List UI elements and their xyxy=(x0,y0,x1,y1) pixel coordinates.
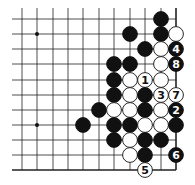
black-stone[interactable] xyxy=(107,133,122,148)
white-stone[interactable] xyxy=(123,88,138,103)
white-stone[interactable]: 1 xyxy=(138,73,153,88)
star-point xyxy=(35,32,39,36)
black-stone[interactable]: 2 xyxy=(169,103,184,118)
white-stone[interactable] xyxy=(138,118,153,133)
white-stone[interactable] xyxy=(123,73,138,88)
white-stone[interactable] xyxy=(154,42,169,57)
black-stone[interactable] xyxy=(107,88,122,103)
black-stone[interactable] xyxy=(107,73,122,88)
black-stone[interactable] xyxy=(154,27,169,42)
move-number-label: 6 xyxy=(172,149,180,162)
black-stone[interactable] xyxy=(138,88,153,103)
move-number-label: 1 xyxy=(141,74,149,87)
black-stone[interactable] xyxy=(123,57,138,72)
white-stone[interactable] xyxy=(123,133,138,148)
white-stone[interactable] xyxy=(154,118,169,133)
black-stone[interactable] xyxy=(138,42,153,57)
black-stone[interactable] xyxy=(154,133,169,148)
black-stone[interactable] xyxy=(92,103,107,118)
star-point xyxy=(35,123,39,127)
white-stone[interactable] xyxy=(123,103,138,118)
move-number-label: 4 xyxy=(172,43,180,56)
white-stone[interactable] xyxy=(123,148,138,163)
black-stone[interactable] xyxy=(154,12,169,27)
white-stone[interactable]: 7 xyxy=(169,88,184,103)
move-number-label: 2 xyxy=(172,104,180,117)
go-board[interactable]: 48137265 xyxy=(0,0,195,185)
black-stone[interactable] xyxy=(123,27,138,42)
black-stone[interactable]: 8 xyxy=(169,57,184,72)
white-stone[interactable] xyxy=(154,57,169,72)
move-number-label: 3 xyxy=(157,89,165,102)
white-stone[interactable] xyxy=(169,27,184,42)
black-stone[interactable] xyxy=(107,57,122,72)
black-stone[interactable]: 4 xyxy=(169,42,184,57)
black-stone[interactable] xyxy=(138,103,153,118)
move-number-label: 8 xyxy=(172,58,180,71)
white-stone[interactable]: 5 xyxy=(138,163,153,178)
black-stone[interactable] xyxy=(169,118,184,133)
white-stone[interactable] xyxy=(154,103,169,118)
white-stone[interactable]: 3 xyxy=(154,88,169,103)
black-stone[interactable] xyxy=(138,148,153,163)
black-stone[interactable]: 6 xyxy=(169,148,184,163)
stones-layer: 48137265 xyxy=(76,12,184,178)
black-stone[interactable] xyxy=(123,118,138,133)
move-number-label: 5 xyxy=(141,164,149,177)
move-number-label: 7 xyxy=(172,89,180,102)
black-stone[interactable] xyxy=(76,118,91,133)
black-stone[interactable] xyxy=(138,133,153,148)
white-stone[interactable] xyxy=(107,103,122,118)
black-stone[interactable] xyxy=(107,118,122,133)
white-stone[interactable] xyxy=(154,73,169,88)
